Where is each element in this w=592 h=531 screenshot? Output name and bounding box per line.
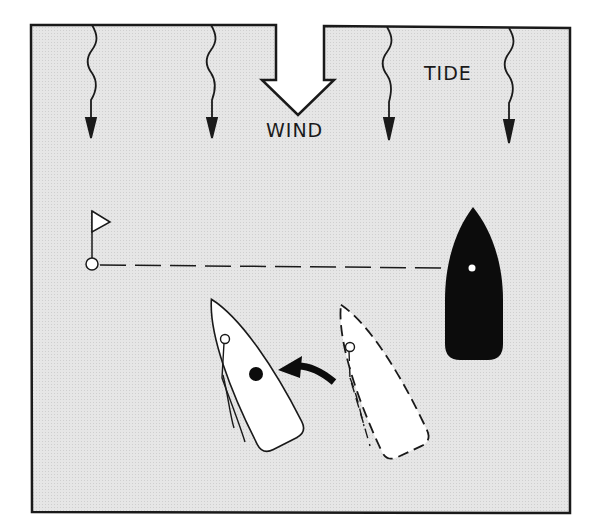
- wind-label: WIND: [266, 121, 323, 140]
- diagram-canvas: WIND TIDE: [0, 0, 592, 531]
- tide-label: TIDE: [424, 64, 472, 83]
- crew-marker-icon: [249, 367, 263, 381]
